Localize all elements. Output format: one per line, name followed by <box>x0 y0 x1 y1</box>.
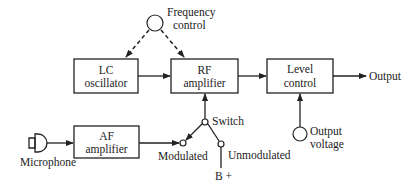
output-voltage-knob-icon <box>293 127 307 141</box>
lc-oscillator-block: LC oscillator <box>74 59 138 93</box>
frequency-control-knob-icon <box>147 15 163 31</box>
output-label: Output <box>369 70 402 83</box>
freq-to-lc-dashed-arrow <box>126 30 149 57</box>
rf-amplifier-block: RF amplifier <box>171 59 238 93</box>
level-control-label-1: Level <box>287 63 313 75</box>
lc-oscillator-label-2: oscillator <box>85 77 128 89</box>
b-plus-label: B + <box>215 170 232 182</box>
level-control-label-2: control <box>284 77 317 89</box>
level-control-block: Level control <box>267 59 333 93</box>
frequency-control-label-2: control <box>173 19 206 31</box>
af-amplifier-block: AF amplifier <box>74 126 139 158</box>
frequency-control-label-1: Frequency <box>167 6 216 19</box>
rf-amplifier-label-1: RF <box>197 64 211 76</box>
rf-amplifier-label-2: amplifier <box>183 77 225 90</box>
frequency-control: Frequency control <box>147 6 216 31</box>
lc-oscillator-label-1: LC <box>99 64 114 76</box>
switch-label: Switch <box>212 115 244 127</box>
microphone-icon <box>29 134 47 152</box>
af-amplifier-label-2: amplifier <box>85 143 127 156</box>
unmodulated-terminal-node <box>218 141 224 147</box>
switch-pivot-node <box>202 119 208 125</box>
microphone-label: Microphone <box>20 156 76 169</box>
unmodulated-label: Unmodulated <box>228 149 291 161</box>
freq-to-rf-dashed-arrow <box>161 30 184 57</box>
output-voltage-label-2: voltage <box>310 138 344 151</box>
output-voltage-label-1: Output <box>310 125 343 138</box>
modulated-terminal-node <box>180 140 186 146</box>
modulated-label: Modulated <box>158 150 208 162</box>
rf-signal-generator-block-diagram: Frequency control LC oscillator RF ampli… <box>0 0 408 186</box>
af-amplifier-label-1: AF <box>99 130 114 142</box>
switch-arm <box>186 124 202 140</box>
